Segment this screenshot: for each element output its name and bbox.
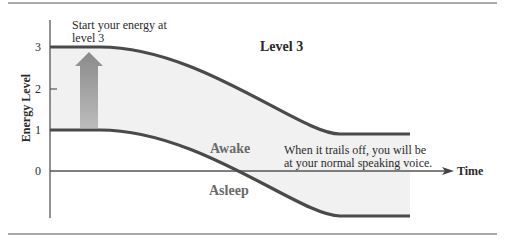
- region-label-level3: Level 3: [260, 39, 303, 54]
- end-annotation-line1: When it trails off, you will be: [284, 143, 426, 157]
- start-annotation-line1: Start your energy at: [72, 18, 167, 32]
- y-tick-2: 2: [35, 82, 41, 96]
- region-label-asleep: Asleep: [209, 183, 249, 198]
- region-label-awake: Awake: [210, 141, 250, 156]
- y-tick-0: 0: [35, 164, 41, 178]
- energy-level-diagram: 3 2 1 0 Energy Level Time Start your ene…: [0, 0, 505, 239]
- x-axis-label: Time: [457, 164, 484, 178]
- end-annotation-line2: at your normal speaking voice.: [284, 156, 432, 170]
- y-tick-1: 1: [35, 123, 41, 137]
- y-tick-3: 3: [35, 40, 41, 54]
- y-axis-label: Energy Level: [19, 73, 33, 142]
- start-annotation-line2: level 3: [72, 31, 104, 45]
